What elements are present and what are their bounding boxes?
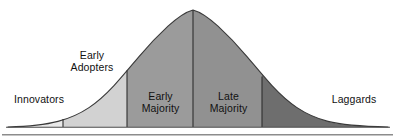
band-late-majority bbox=[193, 0, 262, 128]
band-laggards bbox=[262, 0, 395, 128]
band-early-majority bbox=[127, 0, 193, 128]
band-early-adopters bbox=[63, 0, 127, 128]
bell-curve-chart bbox=[0, 0, 395, 140]
adoption-curve-figure: Innovators Early Adopters Early Majority… bbox=[0, 0, 395, 140]
curve-bands bbox=[0, 0, 395, 128]
band-innovators bbox=[0, 0, 63, 128]
